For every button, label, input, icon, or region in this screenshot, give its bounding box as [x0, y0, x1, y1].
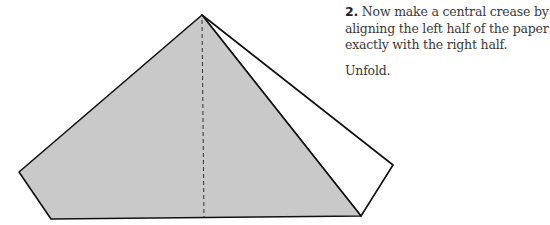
instruction-paragraph: 2. Now make a central crease by aligning… [345, 4, 550, 54]
followup-text: Unfold. [345, 63, 550, 80]
instruction-block: 2. Now make a central crease by aligning… [345, 4, 550, 88]
instruction-text: Now make a central crease by aligning th… [345, 4, 549, 52]
step-number: 2. [345, 4, 358, 19]
